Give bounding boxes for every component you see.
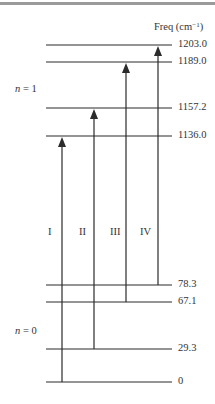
arrowhead-icon [154,46,162,56]
level-value-label: 1136.0 [178,130,207,141]
manifold-label: n = 1 [15,84,37,95]
manifold-label: n = 0 [15,326,37,337]
level-value-label: 1203.0 [178,39,207,50]
transition-label: IV [140,227,151,238]
transition-label: I [48,227,52,238]
arrowhead-icon [58,137,66,147]
level-value-label: 0 [178,376,183,387]
level-value-label: 67.1 [178,296,196,307]
arrowhead-icon [90,109,98,119]
transition-arrows [58,46,162,382]
energy-level-lines [46,45,172,382]
transition-label: III [110,227,121,238]
level-value-label: 78.3 [178,279,196,290]
level-value-label: 1189.0 [178,56,207,67]
arrowhead-icon [122,63,130,73]
transition-label: II [79,227,86,238]
level-value-label: 29.3 [178,343,196,354]
level-value-label: 1157.2 [178,102,207,113]
